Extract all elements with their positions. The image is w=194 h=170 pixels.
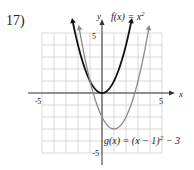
y-axis-label: y: [96, 11, 101, 21]
f-label: f(x) = x2: [111, 10, 145, 23]
y-tick-label: -5: [92, 149, 99, 158]
y-tick-label: 5: [92, 32, 96, 41]
graph: yx-555-5f(x) = x2g(x) = (x − 1)2 − 3: [0, 0, 194, 170]
x-axis-arrow-icon: [169, 91, 175, 96]
curve-arrow-icon: [70, 18, 75, 23]
curves: [70, 18, 151, 129]
labels: yx-555-5f(x) = x2g(x) = (x − 1)2 − 3: [35, 10, 183, 158]
curve-arrow-icon: [77, 25, 83, 30]
x-tick-label: -5: [35, 97, 42, 106]
curve-arrow-icon: [146, 25, 152, 30]
g-label: g(x) = (x − 1)2 − 3: [104, 134, 180, 147]
x-axis-label: x: [178, 89, 183, 99]
x-tick-label: 5: [159, 97, 163, 106]
